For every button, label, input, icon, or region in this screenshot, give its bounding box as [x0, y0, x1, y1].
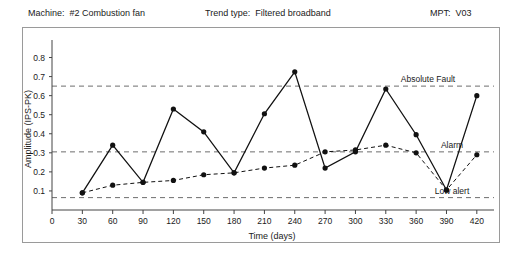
x-tick-label: 30 — [78, 216, 88, 226]
y-tick-label: 0.4 — [33, 129, 45, 139]
threshold-label-low-alert: Low alert — [435, 186, 470, 196]
x-tick-label: 180 — [227, 216, 241, 226]
x-tick-label: 120 — [166, 216, 180, 226]
x-tick-label: 420 — [470, 216, 484, 226]
data-point — [474, 152, 479, 157]
data-point — [292, 69, 297, 74]
x-tick-label: 90 — [138, 216, 148, 226]
series-line-measured — [82, 72, 476, 193]
data-point — [383, 86, 388, 91]
data-point — [110, 183, 115, 188]
x-tick-label: 330 — [379, 216, 393, 226]
data-point — [292, 163, 297, 168]
data-point — [171, 178, 176, 183]
x-axis-title: Time (days) — [248, 231, 295, 241]
x-tick-label: 240 — [288, 216, 302, 226]
x-tick-label: 390 — [439, 216, 453, 226]
data-point — [262, 165, 267, 170]
y-tick-label: 0.2 — [33, 167, 45, 177]
x-tick-label: 60 — [108, 216, 118, 226]
data-point — [231, 170, 236, 175]
x-tick-label: 270 — [318, 216, 332, 226]
x-tick-label: 300 — [348, 216, 362, 226]
x-tick-label: 150 — [197, 216, 211, 226]
data-point — [262, 111, 267, 116]
y-tick-label: 0.5 — [33, 110, 45, 120]
data-point — [110, 143, 115, 148]
threshold-label-absolute-fault: Absolute Fault — [401, 74, 456, 84]
y-tick-label: 0.7 — [33, 72, 45, 82]
data-point — [444, 187, 449, 192]
y-tick-label: 0.8 — [33, 53, 45, 63]
x-tick-label: 360 — [409, 216, 423, 226]
data-point — [80, 190, 85, 195]
data-point — [323, 165, 328, 170]
x-tick-label: 210 — [257, 216, 271, 226]
y-tick-label: 0.1 — [33, 186, 45, 196]
data-point — [140, 180, 145, 185]
x-tick-label: 0 — [50, 216, 55, 226]
data-point — [323, 149, 328, 154]
data-point — [474, 93, 479, 98]
y-axis-title: Amplitude (IPS-PK) — [23, 90, 33, 168]
trend-chart: Absolute FaultAlarmLow alert0.10.20.30.4… — [0, 0, 511, 258]
data-point — [201, 129, 206, 134]
y-tick-label: 0.6 — [33, 91, 45, 101]
data-point — [414, 132, 419, 137]
data-point — [383, 143, 388, 148]
data-point — [201, 172, 206, 177]
chart-page: Machine:#2 Combustion fan Trend type:Fil… — [0, 0, 511, 258]
data-point — [414, 150, 419, 155]
data-point — [353, 147, 358, 152]
data-point — [171, 106, 176, 111]
y-tick-label: 0.3 — [33, 148, 45, 158]
